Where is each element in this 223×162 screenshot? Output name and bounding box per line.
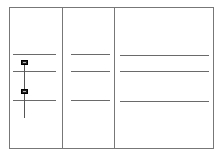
col3-line-2 xyxy=(120,71,209,72)
bottom-marker-icon[interactable] xyxy=(21,89,28,94)
column-divider-2 xyxy=(114,7,115,149)
col1-line-1 xyxy=(13,54,56,55)
col3-line-1 xyxy=(120,55,209,56)
col2-line-3 xyxy=(71,100,110,101)
col2-line-2 xyxy=(71,71,110,72)
col2-line-1 xyxy=(71,54,110,55)
col1-line-2 xyxy=(13,71,56,72)
column-divider-1 xyxy=(62,7,63,149)
col3-line-3 xyxy=(120,101,209,102)
top-marker-icon[interactable] xyxy=(21,60,28,65)
col1-line-3 xyxy=(13,100,56,101)
diagram-frame xyxy=(9,7,214,149)
